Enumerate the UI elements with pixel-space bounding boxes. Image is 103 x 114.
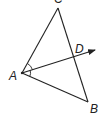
label-c: C [54, 0, 63, 6]
label-b: B [90, 102, 98, 114]
triangle-diagram: C A B D [0, 0, 103, 114]
label-d: D [75, 42, 84, 56]
angle-arc-cad [28, 64, 33, 70]
side-ab [22, 73, 88, 102]
label-a: A [8, 69, 17, 83]
vertex-a-dot [21, 72, 23, 74]
angle-arc-dab [30, 70, 31, 76]
